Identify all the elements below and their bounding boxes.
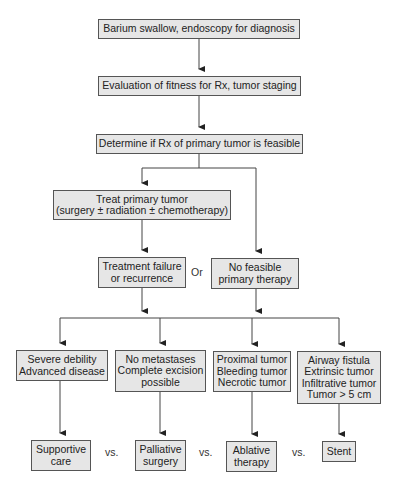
node-ablative-line-1: Ablative — [233, 445, 270, 457]
node-treat: Treat primary tumor (surgery ± radiation… — [53, 190, 231, 220]
node-palliative-line-2: surgery — [139, 456, 181, 468]
node-airway-line-4: Tumor > 5 cm — [302, 389, 377, 401]
or-label: Or — [191, 266, 203, 278]
node-ablative-line-2: therapy — [233, 457, 270, 469]
node-palliative-line-1: Palliative — [139, 444, 181, 456]
node-proximal: Proximal tumor Bleeding tumor Necrotic t… — [213, 351, 291, 392]
vs-label-2: vs. — [199, 446, 212, 458]
node-severe-line-2: Advanced disease — [19, 366, 105, 378]
node-failure: Treatment failure or recurrence — [98, 257, 186, 288]
node-supportive-line-1: Supportive — [36, 444, 86, 456]
vs-label-1: vs. — [105, 446, 118, 458]
node-determine-line-1: Determine if Rx of primary tumor is feas… — [99, 138, 300, 150]
node-severe: Severe debility Advanced disease — [16, 350, 108, 381]
node-stent-line-1: Stent — [327, 446, 352, 458]
node-proximal-line-3: Necrotic tumor — [217, 377, 288, 389]
node-no-feasible: No feasible primary therapy — [211, 258, 299, 289]
node-failure-line-1: Treatment failure — [103, 261, 182, 273]
node-no-feasible-line-1: No feasible — [219, 262, 292, 274]
node-failure-line-2: or recurrence — [103, 273, 182, 285]
node-no-feasible-line-2: primary therapy — [219, 274, 292, 286]
node-severe-line-1: Severe debility — [19, 354, 105, 366]
node-evaluation: Evaluation of fitness for Rx, tumor stag… — [98, 76, 301, 96]
node-airway-line-2: Extrinsic tumor — [302, 366, 377, 378]
node-supportive: Supportive care — [31, 440, 91, 471]
node-palliative: Palliative surgery — [135, 440, 186, 471]
node-no-metastases-line-3: possible — [118, 377, 204, 389]
node-airway: Airway fistula Extrinsic tumor Infiltrat… — [297, 351, 381, 404]
node-stent: Stent — [322, 441, 356, 462]
node-determine: Determine if Rx of primary tumor is feas… — [96, 134, 303, 154]
connector-lines — [0, 0, 398, 486]
node-supportive-line-2: care — [36, 456, 86, 468]
vs-label-3: vs. — [292, 446, 305, 458]
node-treat-line-2: (surgery ± radiation ± chemotherapy) — [56, 205, 228, 217]
node-diagnosis: Barium swallow, endoscopy for diagnosis — [98, 19, 300, 39]
node-no-metastases: No metastases Complete excision possible — [115, 350, 206, 392]
node-ablative: Ablative therapy — [226, 441, 277, 472]
node-diagnosis-line-1: Barium swallow, endoscopy for diagnosis — [103, 23, 294, 35]
node-evaluation-line-1: Evaluation of fitness for Rx, tumor stag… — [102, 80, 296, 92]
